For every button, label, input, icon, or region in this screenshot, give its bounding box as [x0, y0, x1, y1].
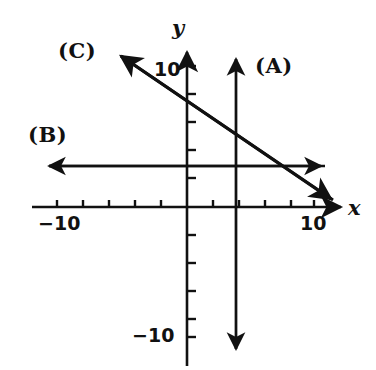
coordinate-plane-figure: y x −10 10 10 −10 (A) (B) (C): [0, 0, 376, 370]
y-tick-label-10: 10: [154, 60, 180, 79]
line-c-oblique-down-arrow: [121, 56, 331, 199]
line-c-label: (C): [58, 40, 96, 61]
x-tick-label-minus-10: −10: [38, 214, 80, 233]
graph-canvas: [0, 0, 376, 370]
x-tick-label-10: 10: [300, 214, 326, 233]
x-axis-label: x: [348, 197, 361, 218]
line-a-label: (A): [255, 55, 293, 76]
y-tick-label-minus-10: −10: [132, 326, 174, 345]
y-axis-label: y: [172, 17, 184, 38]
y-axis-ticks-positive: [187, 66, 196, 178]
y-axis: [187, 52, 196, 366]
line-b-label: (B): [28, 124, 67, 145]
y-axis-ticks-negative: [187, 235, 196, 337]
